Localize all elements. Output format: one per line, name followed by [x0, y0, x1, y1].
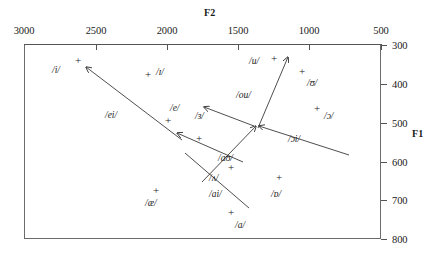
f1-tick-label: 400	[392, 79, 407, 90]
vowel-schwa-label: /ɜ/	[195, 112, 204, 122]
f1-tick-label: 500	[392, 118, 407, 129]
f1-tick-mark	[381, 45, 387, 46]
diphthong-oi-label: /ɔi/	[288, 135, 300, 145]
vowel-turned-script-a-label: /ɒ/	[271, 190, 281, 200]
vowel-open-o-marker: +	[314, 103, 320, 114]
f1-tick-mark	[381, 123, 387, 124]
vowel-upsilon-label: /ʊ/	[307, 79, 317, 89]
f2-tick-label: 3000	[14, 25, 35, 36]
vowel-i-marker: +	[75, 55, 81, 66]
vowel-small-i-marker: +	[145, 69, 151, 80]
f2-tick-label: 500	[373, 25, 388, 36]
vowel-small-i-label: /ɪ/	[156, 68, 164, 78]
vowel-e-marker: +	[165, 115, 171, 126]
f1-tick-label: 600	[392, 157, 407, 168]
f1-tick-label: 800	[392, 234, 407, 245]
diphthong-ou-label: /ou/	[236, 91, 251, 101]
vowel-a-label: /a/	[235, 221, 245, 231]
vowel-ae-marker: +	[153, 185, 159, 196]
f1-tick-mark	[381, 239, 387, 240]
f2-tick-label: 1000	[299, 25, 320, 36]
diphthong-ai-label: /ai/	[209, 190, 222, 200]
vowel-a-marker: +	[228, 207, 234, 218]
f1-tick-label: 700	[392, 195, 407, 206]
vowel-formant-chart: F2 F1 30002500200015001000500 3004005006…	[0, 0, 439, 259]
vowel-ae-label: /æ/	[145, 199, 157, 209]
vowel-open-o-label: /ɔ/	[324, 112, 334, 122]
vowel-wedge-label: /ʌ/	[209, 174, 219, 184]
f2-tick-label: 2000	[157, 25, 178, 36]
f1-tick-mark	[381, 200, 387, 201]
vowel-u-label: /u/	[249, 57, 259, 67]
vowel-e-label: /e/	[170, 104, 180, 114]
plot-area	[24, 45, 381, 239]
vowel-schwa-marker: +	[196, 133, 202, 144]
vowel-turned-script-a-marker: +	[276, 172, 282, 183]
f1-axis-title: F1	[412, 128, 424, 139]
f1-tick-mark	[381, 84, 387, 85]
diphthong-au-label: /aʊ/	[218, 154, 233, 164]
vowel-upsilon-marker: +	[299, 66, 305, 77]
vowel-u-marker: +	[271, 53, 277, 64]
diphthong-ei-label: /ei/	[105, 111, 117, 121]
f2-tick-label: 2500	[86, 25, 107, 36]
vowel-i-label: /i/	[52, 66, 60, 76]
f2-tick-label: 1500	[228, 25, 249, 36]
f2-axis-title: F2	[204, 7, 216, 18]
f1-tick-mark	[381, 162, 387, 163]
f1-tick-label: 300	[392, 40, 407, 51]
